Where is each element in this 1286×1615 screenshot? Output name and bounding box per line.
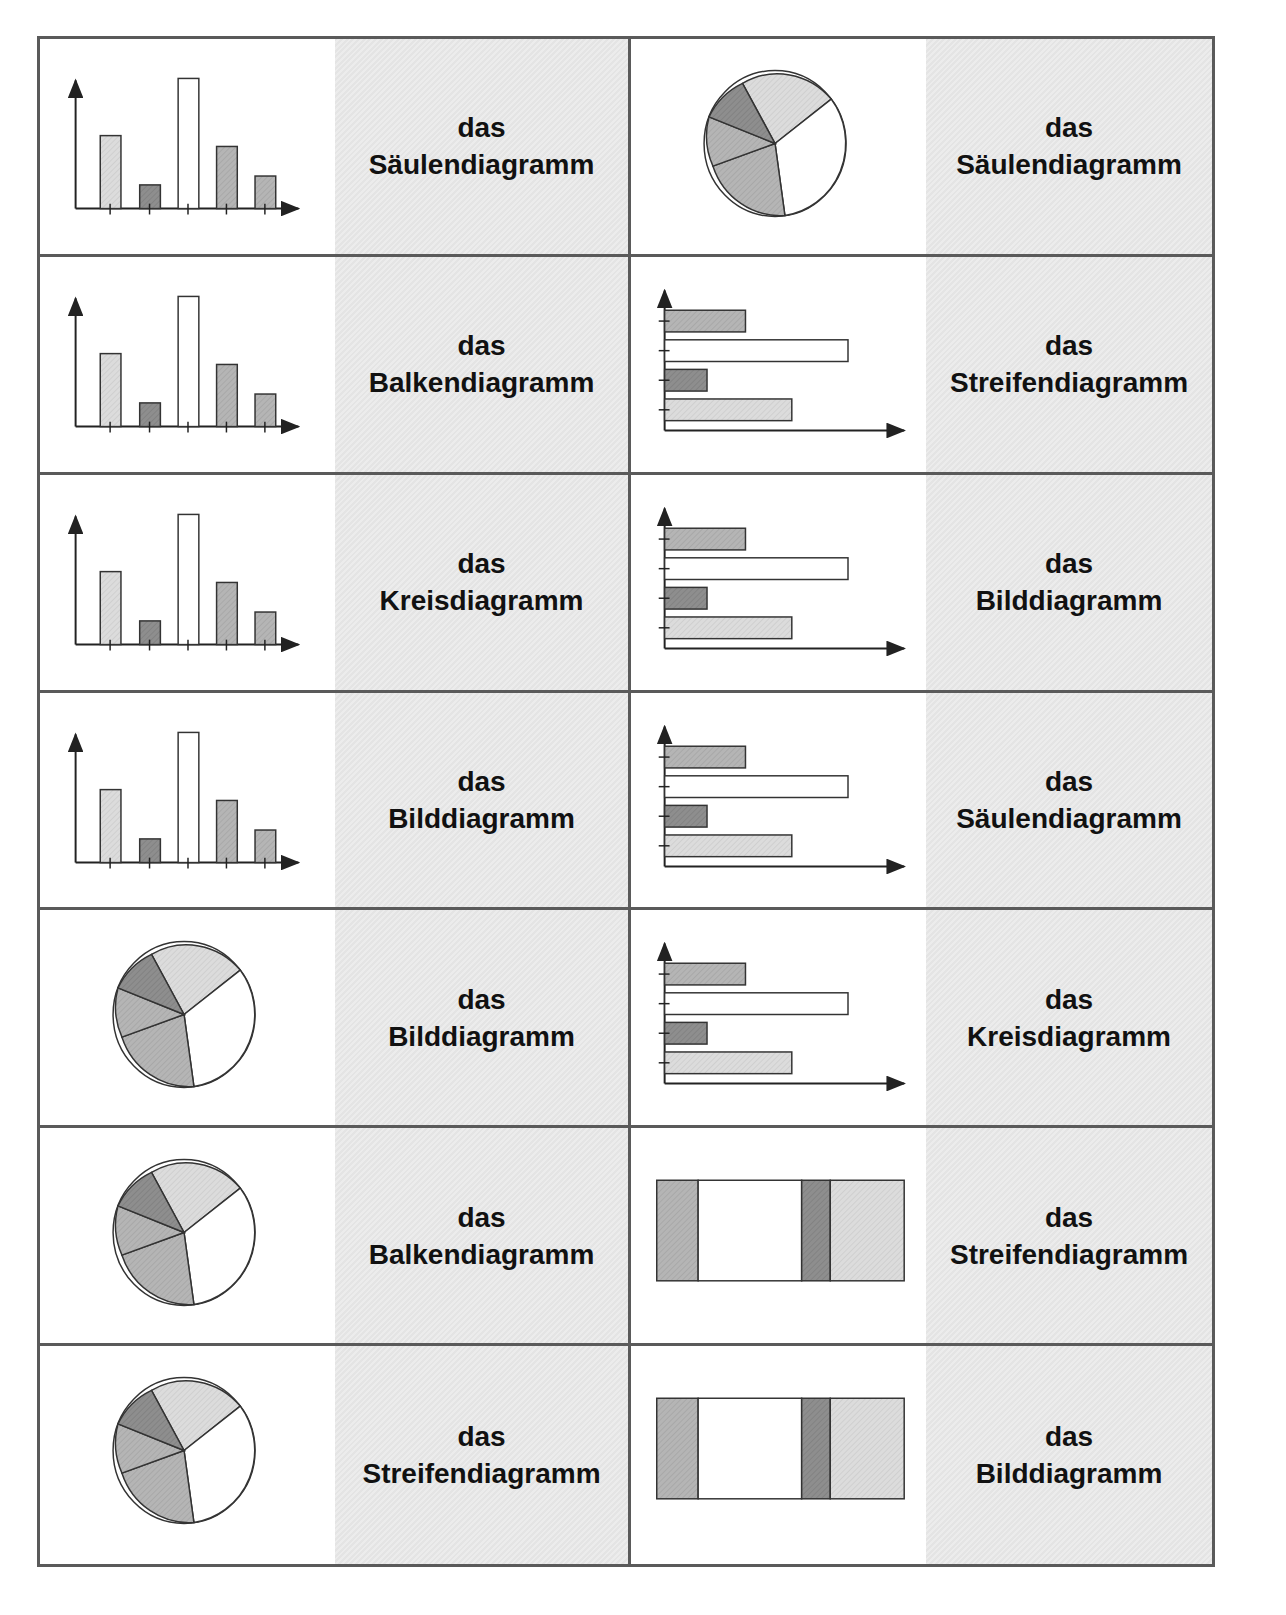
- bar-chart-picture: [631, 257, 926, 472]
- pie-chart-picture: [631, 39, 926, 254]
- card-label: dasBilddiagramm: [335, 693, 628, 908]
- article: das: [1045, 1199, 1093, 1236]
- card: dasStreifendiagramm: [631, 1128, 1212, 1346]
- card: dasSäulendiagramm: [631, 39, 1212, 257]
- word: Balkendiagramm: [369, 1236, 595, 1273]
- column-chart-picture: [40, 39, 335, 254]
- article: das: [1045, 109, 1093, 146]
- article: das: [457, 545, 505, 582]
- card-label: dasSäulendiagramm: [926, 39, 1212, 254]
- pie-chart-picture: [40, 1128, 335, 1343]
- word: Kreisdiagramm: [380, 582, 584, 619]
- card: dasKreisdiagramm: [40, 475, 631, 693]
- card-label: dasSäulendiagramm: [926, 693, 1212, 908]
- word: Streifendiagramm: [950, 364, 1188, 401]
- card: dasStreifendiagramm: [631, 257, 1212, 475]
- word: Bilddiagramm: [388, 1018, 575, 1055]
- card: dasKreisdiagramm: [631, 910, 1212, 1128]
- article: das: [457, 763, 505, 800]
- article: das: [1045, 327, 1093, 364]
- word: Bilddiagramm: [976, 582, 1163, 619]
- article: das: [457, 981, 505, 1018]
- card: dasBilddiagramm: [40, 910, 631, 1128]
- word: Säulendiagramm: [956, 146, 1182, 183]
- word: Bilddiagramm: [976, 1455, 1163, 1492]
- worksheet-grid: dasSäulendiagramm dasSäulendiagramm dasB…: [37, 36, 1215, 1567]
- card-label: dasBilddiagramm: [926, 1346, 1212, 1564]
- article: das: [1045, 1418, 1093, 1455]
- card: dasBalkendiagramm: [40, 1128, 631, 1346]
- card-label: dasBalkendiagramm: [335, 257, 628, 472]
- article: das: [457, 1199, 505, 1236]
- pie-chart-picture: [40, 910, 335, 1125]
- pie-chart-picture: [40, 1346, 335, 1564]
- card-label: dasBilddiagramm: [926, 475, 1212, 690]
- article: das: [457, 327, 505, 364]
- bar-chart-picture: [631, 693, 926, 908]
- word: Streifendiagramm: [362, 1455, 600, 1492]
- card-label: dasStreifendiagramm: [926, 257, 1212, 472]
- stripe-chart-picture: [631, 1346, 926, 1564]
- article: das: [1045, 763, 1093, 800]
- card: dasBilddiagramm: [40, 693, 631, 911]
- word: Balkendiagramm: [369, 364, 595, 401]
- card-label: dasStreifendiagramm: [926, 1128, 1212, 1343]
- card: dasBilddiagramm: [631, 475, 1212, 693]
- card: dasSäulendiagramm: [40, 39, 631, 257]
- word: Kreisdiagramm: [967, 1018, 1171, 1055]
- article: das: [457, 109, 505, 146]
- card: dasStreifendiagramm: [40, 1346, 631, 1564]
- article: das: [457, 1418, 505, 1455]
- card-label: dasSäulendiagramm: [335, 39, 628, 254]
- card: dasBalkendiagramm: [40, 257, 631, 475]
- word: Säulendiagramm: [369, 146, 595, 183]
- card-label: dasStreifendiagramm: [335, 1346, 628, 1564]
- card: dasBilddiagramm: [631, 1346, 1212, 1564]
- card-label: dasKreisdiagramm: [926, 910, 1212, 1125]
- word: Bilddiagramm: [388, 800, 575, 837]
- word: Streifendiagramm: [950, 1236, 1188, 1273]
- word: Säulendiagramm: [956, 800, 1182, 837]
- column-chart-picture: [40, 257, 335, 472]
- column-chart-picture: [40, 475, 335, 690]
- article: das: [1045, 545, 1093, 582]
- stripe-chart-picture: [631, 1128, 926, 1343]
- bar-chart-picture: [631, 910, 926, 1125]
- card-label: dasKreisdiagramm: [335, 475, 628, 690]
- card: dasSäulendiagramm: [631, 693, 1212, 911]
- bar-chart-picture: [631, 475, 926, 690]
- article: das: [1045, 981, 1093, 1018]
- card-label: dasBilddiagramm: [335, 910, 628, 1125]
- column-chart-picture: [40, 693, 335, 908]
- card-label: dasBalkendiagramm: [335, 1128, 628, 1343]
